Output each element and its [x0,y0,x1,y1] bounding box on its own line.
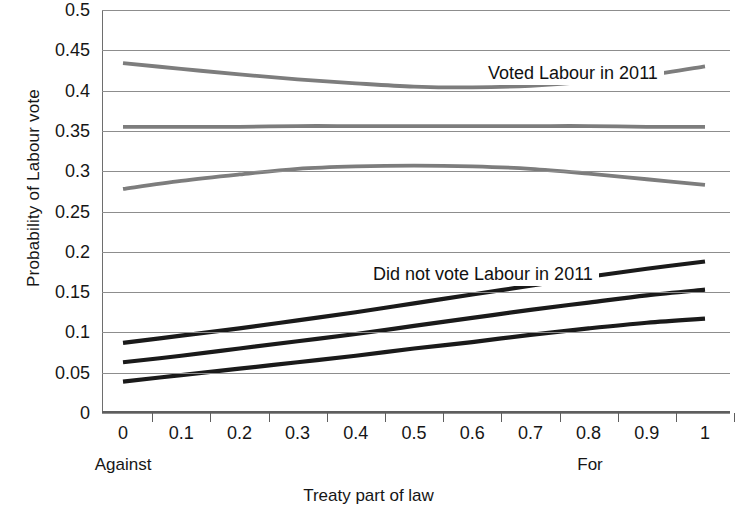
x-tick-label: 0 [98,424,148,442]
x-tick-label: 0.7 [505,424,555,442]
x-axis-title: Treaty part of law [0,486,737,506]
x-tick-mark [676,413,677,422]
y-tick-label: 0.1 [28,323,90,341]
gridline [102,252,730,253]
x-tick-mark [327,413,328,422]
plot-area: Voted Labour in 2011 Did not vote Labour… [102,10,730,413]
x-tick-mark [443,413,444,422]
annotation-did-not-vote-labour: Did not vote Labour in 2011 [367,263,599,286]
series-line [123,126,705,127]
x-tick-mark [734,413,735,422]
gridline [102,332,730,333]
y-axis-tick-labels: 0.50.450.40.350.30.250.20.150.10.050 [26,0,90,430]
y-tick-label: 0.3 [28,162,90,180]
x-tick-mark [560,413,561,422]
y-tick-label: 0.45 [28,41,90,59]
x-tick-label: 0.8 [564,424,614,442]
x-tick-label: 0.1 [156,424,206,442]
y-tick-label: 0.5 [28,1,90,19]
y-tick-label: 0.35 [28,122,90,140]
x-tick-mark [269,413,270,422]
y-tick-label: 0.4 [28,82,90,100]
x-tick-label: 0.4 [331,424,381,442]
x-axis-tick-labels: 00.10.20.30.40.50.60.70.80.91 [0,424,737,448]
x-axis-anchor-high: For [577,455,603,475]
y-tick-label: 0 [28,404,90,422]
x-tick-label: 1 [680,424,730,442]
x-tick-label: 0.6 [447,424,497,442]
series-line [123,166,705,189]
x-tick-mark [501,413,502,422]
x-tick-mark [385,413,386,422]
gridline [102,50,730,51]
gridline [102,91,730,92]
x-axis-ticks [102,413,730,422]
gridline [102,171,730,172]
annotation-voted-labour: Voted Labour in 2011 [482,62,664,85]
y-tick-label: 0.15 [28,283,90,301]
chart-figure: Probability of Labour vote 0.50.450.40.3… [0,0,737,508]
x-tick-label: 0.3 [273,424,323,442]
x-tick-mark [618,413,619,422]
gridline [102,131,730,132]
gridline [102,10,730,11]
y-tick-label: 0.05 [28,364,90,382]
x-tick-mark [210,413,211,422]
x-axis-anchor-low: Against [95,455,152,475]
x-tick-label: 0.9 [622,424,672,442]
y-tick-label: 0.2 [28,243,90,261]
gridline [102,373,730,374]
y-tick-label: 0.25 [28,203,90,221]
x-tick-mark [152,413,153,422]
gridline [102,212,730,213]
x-tick-label: 0.5 [389,424,439,442]
gridline [102,292,730,293]
x-tick-label: 0.2 [214,424,264,442]
